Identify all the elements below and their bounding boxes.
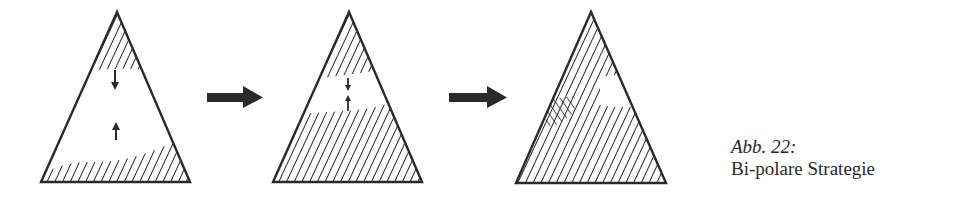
arrow-down-icon [111, 70, 119, 90]
figure-title: Bi-polare Strategie [731, 158, 875, 180]
triangle-stage-3 [500, 0, 680, 200]
bottom-hatch-region [260, 94, 430, 200]
top-hatch-region [80, 0, 160, 72]
transition-arrow-1-icon [207, 86, 263, 108]
triangle-stage-1 [40, 0, 195, 190]
triangle-stage-2 [260, 0, 430, 200]
arrow-up-icon [112, 122, 120, 140]
arrow-up-icon [345, 95, 351, 111]
arrow-down-icon [345, 78, 351, 91]
figure-caption: Abb. 22: Bi-polare Strategie [731, 136, 875, 180]
figure-label: Abb. 22: [731, 136, 875, 158]
transition-arrow-2-icon [449, 86, 507, 108]
